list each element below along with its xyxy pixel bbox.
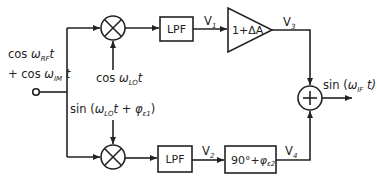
bottom-lpf-block: LPF bbox=[158, 146, 192, 172]
phase-shift-block: 90°+φε2 bbox=[225, 146, 276, 173]
summer bbox=[298, 86, 322, 110]
input-terminal bbox=[33, 89, 67, 96]
v3-wire bbox=[272, 30, 310, 85]
svg-text:LPF: LPF bbox=[167, 23, 186, 36]
input-signal-label: cos ωRFt + cos ωIM t bbox=[8, 47, 71, 83]
output-label: sin (ωIF t) bbox=[323, 78, 376, 94]
bottom-lo-label: sin (ωLOt + φε1) bbox=[70, 102, 155, 118]
gain-amplifier: 1+ΔA bbox=[228, 8, 272, 52]
svg-text:1+ΔA: 1+ΔA bbox=[232, 24, 264, 37]
image-reject-receiver-diagram: cos ωRFt + cos ωIM t cos ωLOt LPF V1 1+Δ… bbox=[0, 0, 377, 180]
svg-text:+ cos ωIM t: + cos ωIM t bbox=[8, 67, 71, 83]
v4-label: V4 bbox=[285, 144, 297, 160]
svg-text:cos ωRFt: cos ωRFt bbox=[8, 47, 55, 63]
top-lpf-block: LPF bbox=[160, 17, 193, 41]
v1-label: V1 bbox=[204, 14, 216, 30]
top-lo-label: cos ωLOt bbox=[96, 71, 143, 87]
svg-text:LPF: LPF bbox=[165, 153, 184, 166]
v3-label: V3 bbox=[283, 15, 295, 31]
bottom-mixer bbox=[101, 145, 125, 169]
v2-label: V2 bbox=[202, 144, 215, 160]
top-mixer bbox=[101, 16, 125, 40]
